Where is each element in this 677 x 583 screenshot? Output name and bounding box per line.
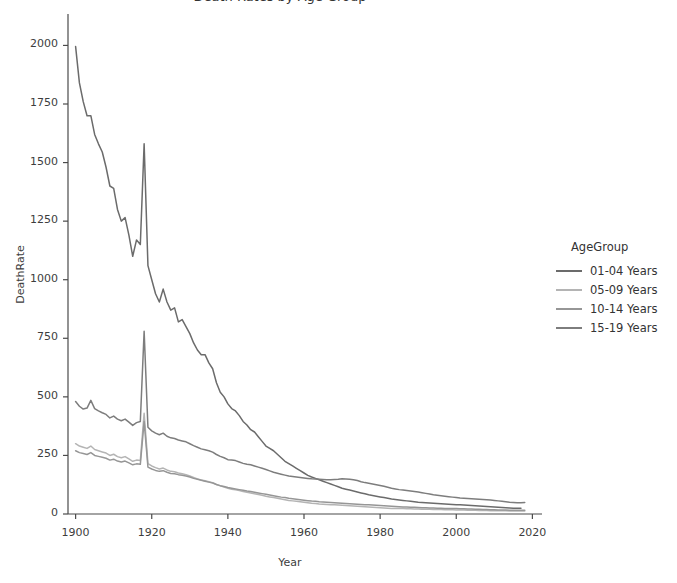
y-tick-label: 1250	[12, 213, 58, 226]
x-tick-label: 1900	[51, 526, 101, 539]
data-series-group	[76, 47, 525, 511]
chart-figure: Death Rates by Age Group 025050075010001…	[0, 0, 677, 583]
series-line	[76, 331, 525, 502]
legend-item[interactable]: 05-09 Years	[556, 280, 676, 299]
legend: AgeGroup 01-04 Years05-09 Years10-14 Yea…	[556, 240, 676, 337]
y-tick-label: 0	[12, 506, 58, 519]
x-axis-label: Year	[0, 556, 580, 569]
y-tick-label: 1500	[12, 155, 58, 168]
legend-item-label: 10-14 Years	[590, 302, 657, 316]
legend-item[interactable]: 15-19 Years	[556, 318, 676, 337]
x-tick-label: 1980	[355, 526, 405, 539]
x-tick-label: 2000	[431, 526, 481, 539]
x-tick-label: 1960	[279, 526, 329, 539]
legend-item[interactable]: 01-04 Years	[556, 261, 676, 280]
y-tick-label: 750	[12, 330, 58, 343]
y-tick-label: 2000	[12, 37, 58, 50]
y-axis-label: DeathRate	[14, 235, 27, 315]
legend-item-label: 01-04 Years	[590, 264, 657, 278]
y-tick-label: 500	[12, 389, 58, 402]
y-tick-label: 1750	[12, 96, 58, 109]
legend-swatch-icon	[556, 327, 582, 329]
legend-swatch-icon	[556, 270, 582, 272]
legend-rows: 01-04 Years05-09 Years10-14 Years15-19 Y…	[556, 261, 676, 337]
legend-item[interactable]: 10-14 Years	[556, 299, 676, 318]
series-line	[76, 421, 525, 510]
legend-swatch-icon	[556, 289, 582, 291]
axes	[63, 14, 542, 519]
y-tick-label: 250	[12, 447, 58, 460]
x-tick-label: 1940	[203, 526, 253, 539]
legend-title: AgeGroup	[571, 240, 676, 254]
x-tick-label: 1920	[127, 526, 177, 539]
legend-item-label: 15-19 Years	[590, 321, 657, 335]
x-tick-label: 2020	[507, 526, 557, 539]
legend-item-label: 05-09 Years	[590, 283, 657, 297]
legend-swatch-icon	[556, 308, 582, 310]
